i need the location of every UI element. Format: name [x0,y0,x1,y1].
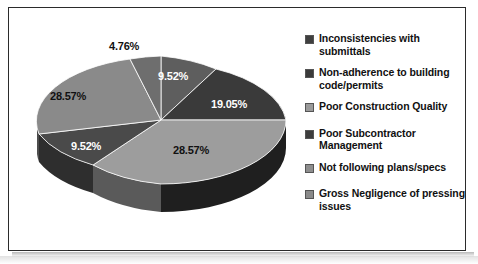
pie-label-non-adherence: 19.05% [211,98,247,110]
pie-label-gross-negligence: 4.76% [109,40,139,52]
legend-item-poor-subcontractor-management[interactable]: Poor Subcontractor Management [305,127,471,152]
legend-swatch-icon [305,103,314,112]
legend-item-poor-construction-quality[interactable]: Poor Construction Quality [305,100,471,113]
pie-label-poor-subcontractor-management: 9.52% [71,140,101,152]
pie-graphic: 4.76% 9.52% 19.05% 28.57% 28.57% 9.52% [23,54,299,229]
pie-label-not-following-plans-specs: 28.57% [50,90,86,102]
pie-label-inconsistencies: 9.52% [158,70,188,82]
legend-item-label: Non-adherence to building code/permits [319,66,471,91]
legend-item-gross-negligence-of-pressing-issues[interactable]: Gross Negligence of pressing issues [305,187,471,212]
pie-label-poor-construction-quality: 28.57% [173,144,209,156]
legend-item-label: Inconsistencies with submittals [319,32,471,57]
legend-swatch-icon [305,130,314,139]
legend-swatch-icon [305,164,314,173]
legend-swatch-icon [305,190,314,199]
legend-item-label: Poor Subcontractor Management [319,127,471,152]
legend-item-label: Not following plans/specs [319,161,446,174]
pie-chart-figure: 4.76% 9.52% 19.05% 28.57% 28.57% 9.52% I… [0,0,478,264]
legend-swatch-icon [305,69,314,78]
legend-swatch-icon [305,35,314,44]
chart-frame-border: 4.76% 9.52% 19.05% 28.57% 28.57% 9.52% I… [8,7,466,251]
legend-item-label: Gross Negligence of pressing issues [319,187,471,212]
chart-legend: Inconsistencies with submittals Non-adhe… [305,32,471,221]
legend-item-label: Poor Construction Quality [319,100,447,113]
legend-item-inconsistencies-with-submittals[interactable]: Inconsistencies with submittals [305,32,471,57]
legend-item-non-adherence-to-building-code-permits[interactable]: Non-adherence to building code/permits [305,66,471,91]
legend-item-not-following-plans-specs[interactable]: Not following plans/specs [305,161,471,174]
scan-artifact-strip [0,256,478,264]
